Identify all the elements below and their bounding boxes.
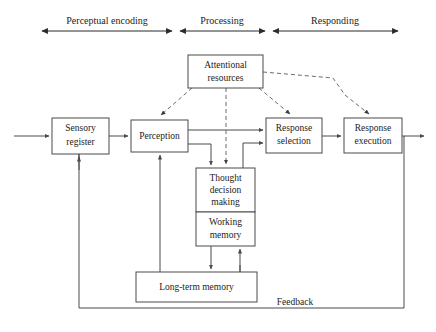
diagram-root: Perceptual encoding Processing Respondin… [0,0,436,332]
perception-label: Perception [139,131,180,141]
phase-processing: Processing [180,15,265,31]
phase-label-responding: Responding [311,15,359,26]
feedback-label: Feedback [277,297,314,307]
node-response-execution[interactable]: Response execution [344,118,402,153]
node-long-term-memory[interactable]: Long-term memory [136,272,257,302]
sensory-register-label-line2: register [66,137,95,147]
connector-thought-to-response-selection [243,143,263,168]
node-sensory-register[interactable]: Sensory register [52,118,109,154]
node-response-selection[interactable]: Response selection [266,118,322,153]
node-perception[interactable]: Perception [131,120,188,152]
connector-attention-to-response-selection [259,88,290,114]
attentional-resources-label-line1: Attentional [204,60,247,70]
connector-attention-to-perception [161,88,192,115]
response-execution-label-line2: execution [355,136,392,146]
thought-label-line3: making [211,197,240,207]
node-working-memory[interactable]: Working memory [196,212,255,246]
working-memory-label-line2: memory [210,230,242,240]
node-attentional-resources[interactable]: Attentional resources [188,55,263,88]
information-processing-diagram: Perceptual encoding Processing Respondin… [0,0,436,332]
phase-label-perceptual-encoding: Perceptual encoding [66,15,147,26]
sensory-register-label-line1: Sensory [65,123,96,133]
connector-attention-to-response-execution [263,72,369,114]
phase-perceptual-encoding: Perceptual encoding [42,15,172,31]
long-term-memory-label: Long-term memory [159,282,234,292]
response-execution-label-line1: Response [355,123,391,133]
boxes-group: Sensory register Perception Attentional … [52,55,402,302]
phase-header-group: Perceptual encoding Processing Respondin… [42,15,398,31]
working-memory-label-line1: Working [209,217,242,227]
response-selection-label-line1: Response [276,123,312,133]
response-selection-label-line2: selection [277,136,311,146]
attentional-resources-label-line2: resources [208,73,244,83]
phase-label-processing: Processing [200,15,243,26]
phase-responding: Responding [273,15,398,31]
connector-perception-to-thought [188,144,211,165]
node-thought-decision-making[interactable]: Thought decision making [196,168,255,212]
thought-label-line2: decision [210,185,242,195]
thought-label-line1: Thought [209,173,242,183]
